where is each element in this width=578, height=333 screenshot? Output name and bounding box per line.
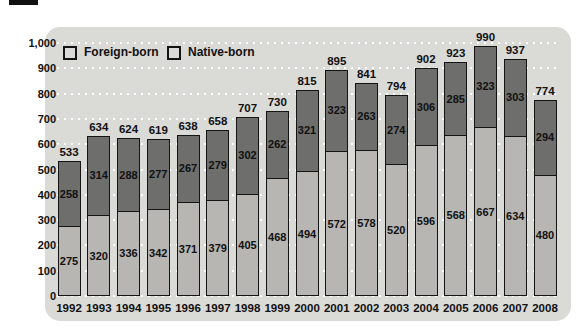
bar-1993 <box>87 136 110 296</box>
segment-native-born-2004 <box>416 69 437 146</box>
y-axis-tick-label: 900 <box>8 61 56 75</box>
segment-native-born-1995 <box>148 140 169 210</box>
segment-native-born-2003 <box>386 96 407 165</box>
segment-native-born-1998 <box>237 118 258 194</box>
segment-foreign-born-1999 <box>267 179 288 295</box>
gridline-1000 <box>57 42 559 44</box>
bar-2005 <box>444 62 467 296</box>
segment-native-born-2001 <box>326 71 347 153</box>
legend-swatch-native-born <box>167 46 181 60</box>
segment-native-born-1997 <box>207 131 228 202</box>
figure-canvas: Foreign-born Native-born 1,0009008007006… <box>0 0 578 333</box>
y-axis-tick-label: 700 <box>8 112 56 126</box>
y-axis-tick-label: 100 <box>8 264 56 278</box>
segment-foreign-born-1995 <box>148 210 169 295</box>
bar-2001 <box>325 70 348 296</box>
y-axis-tick-label: 1,000 <box>8 36 56 50</box>
segment-native-born-2006 <box>475 47 496 129</box>
segment-foreign-born-1994 <box>118 212 139 295</box>
segment-foreign-born-2008 <box>535 176 556 295</box>
y-axis-tick-label: 200 <box>8 238 56 252</box>
x-axis-label-2008: 2008 <box>525 302 565 314</box>
segment-foreign-born-1998 <box>237 195 258 295</box>
segment-foreign-born-2007 <box>505 137 526 295</box>
segment-native-born-2007 <box>505 60 526 137</box>
bar-2008 <box>534 100 557 296</box>
segment-native-born-1994 <box>118 139 139 212</box>
segment-foreign-born-1997 <box>207 201 228 295</box>
segment-native-born-1992 <box>59 162 80 227</box>
segment-native-born-1999 <box>267 112 288 178</box>
y-axis-tick-label: 300 <box>8 213 56 227</box>
segment-foreign-born-2002 <box>356 151 377 295</box>
segment-foreign-born-2003 <box>386 165 407 295</box>
y-axis-tick-label: 600 <box>8 137 56 151</box>
bar-2002 <box>355 83 378 296</box>
y-axis-tick-label: 400 <box>8 188 56 202</box>
segment-foreign-born-2006 <box>475 128 496 295</box>
segment-native-born-2002 <box>356 84 377 151</box>
segment-foreign-born-1993 <box>88 216 109 295</box>
top-left-print-artifact <box>9 0 38 5</box>
segment-foreign-born-1992 <box>59 227 80 295</box>
y-axis-tick-label: 800 <box>8 87 56 101</box>
segment-foreign-born-2001 <box>326 152 347 295</box>
segment-foreign-born-1996 <box>178 203 199 295</box>
legend-swatch-foreign-born <box>63 46 77 60</box>
bar-2003 <box>385 95 408 296</box>
y-axis-tick-label: 500 <box>8 163 56 177</box>
bar-2007 <box>504 59 527 296</box>
segment-native-born-1996 <box>178 136 199 204</box>
segment-native-born-2000 <box>297 91 318 172</box>
legend-label-foreign-born: Foreign-born <box>84 45 159 60</box>
bar-1992 <box>58 161 81 296</box>
bar-2004 <box>415 68 438 296</box>
bar-1996 <box>177 135 200 296</box>
bar-1997 <box>206 130 229 296</box>
bar-1994 <box>117 138 140 296</box>
segment-foreign-born-2005 <box>445 136 466 295</box>
segment-native-born-2008 <box>535 101 556 175</box>
segment-native-born-2005 <box>445 63 466 135</box>
bar-1998 <box>236 117 259 296</box>
bar-1995 <box>147 139 170 296</box>
segment-foreign-born-2000 <box>297 172 318 295</box>
segment-native-born-1993 <box>88 137 109 216</box>
legend-label-native-born: Native-born <box>188 45 255 60</box>
bar-2000 <box>296 90 319 296</box>
bar-1999 <box>266 111 289 296</box>
y-axis-tick-label: 0 <box>8 289 56 303</box>
bar-2006 <box>474 46 497 296</box>
segment-foreign-born-2004 <box>416 146 437 295</box>
